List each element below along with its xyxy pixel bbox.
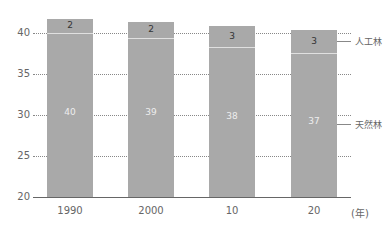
y-tick-20: 20	[8, 191, 30, 202]
value-label-artificial: 3	[291, 36, 337, 46]
value-label-natural: 39	[128, 107, 174, 117]
y-tick-35: 35	[8, 68, 30, 79]
legend-natural: 天然林	[355, 118, 382, 131]
x-tick-1990: 1990	[40, 205, 100, 216]
legend-leader-natural	[337, 124, 351, 125]
y-tick-40: 40	[8, 27, 30, 38]
x-tick-2000: 2000	[121, 205, 181, 216]
value-label-natural: 40	[47, 107, 93, 117]
x-tick-2020: 20	[284, 205, 344, 216]
value-label-artificial: 2	[128, 24, 174, 34]
x-axis-unit: (年)	[340, 205, 380, 220]
y-tick-25: 25	[8, 150, 30, 161]
value-label-artificial: 2	[47, 20, 93, 30]
bar-2000: 2 39	[128, 22, 174, 197]
bar-2010: 3 38	[209, 26, 255, 197]
legend-leader-artificial	[337, 41, 351, 42]
value-label-natural: 38	[209, 111, 255, 121]
bar-2020: 3 37	[291, 30, 337, 197]
y-tick-30: 30	[8, 109, 30, 120]
value-label-natural: 37	[291, 116, 337, 126]
value-label-artificial: 3	[209, 31, 255, 41]
x-axis	[33, 197, 351, 198]
bar-1990: 2 40	[47, 19, 93, 197]
x-tick-2010: 10	[202, 205, 262, 216]
legend-artificial: 人工林	[355, 35, 382, 48]
